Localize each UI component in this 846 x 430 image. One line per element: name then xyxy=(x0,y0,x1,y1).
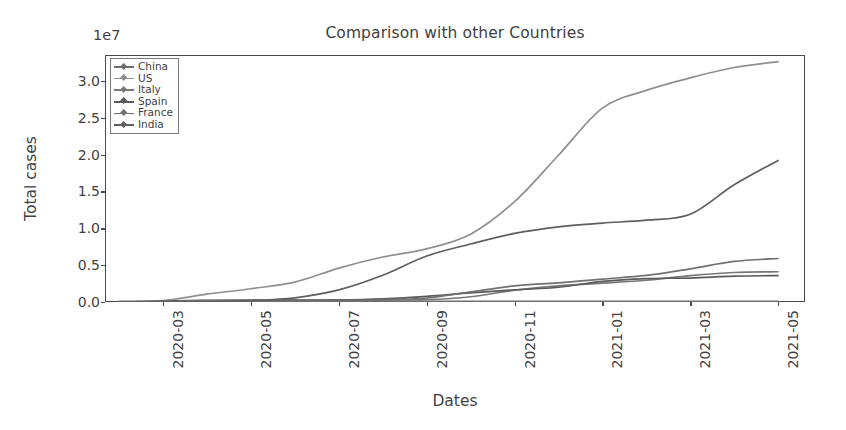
x-tick-mark xyxy=(339,302,340,306)
y-tick-1.0: 1.0 xyxy=(56,220,100,236)
y-tick-2.5: 2.5 xyxy=(56,110,100,126)
legend-item-india[interactable]: India xyxy=(114,119,173,131)
x-tick-2021-03: 2021-03 xyxy=(697,310,713,369)
x-tick-2020-09: 2020-09 xyxy=(434,310,450,369)
plot-lines xyxy=(105,55,805,302)
legend-label: India xyxy=(138,119,164,131)
legend-label: China xyxy=(138,61,168,73)
figure-canvas: 1e7 Comparison with other Countries 0.00… xyxy=(0,0,846,430)
y-tick-0.0: 0.0 xyxy=(56,294,100,310)
x-tick-mark xyxy=(602,302,603,306)
legend-swatch-icon xyxy=(114,96,134,107)
legend-swatch-icon xyxy=(114,84,134,95)
x-tick-mark xyxy=(778,302,779,306)
legend-swatch-icon xyxy=(114,108,134,119)
y-tick-1.5: 1.5 xyxy=(56,183,100,199)
y-tick-3.0: 3.0 xyxy=(56,73,100,89)
y-tick-mark xyxy=(101,302,105,303)
chart-title: Comparison with other Countries xyxy=(105,24,805,42)
x-tick-2020-03: 2020-03 xyxy=(170,310,186,369)
x-tick-mark xyxy=(251,302,252,306)
y-tick-mark xyxy=(101,265,105,266)
y-tick-0.5: 0.5 xyxy=(56,257,100,273)
x-tick-mark xyxy=(163,302,164,306)
y-tick-mark xyxy=(101,81,105,82)
x-tick-2021-05: 2021-05 xyxy=(785,310,801,369)
x-tick-2020-11: 2020-11 xyxy=(522,310,538,369)
x-tick-2021-01: 2021-01 xyxy=(609,310,625,369)
line-france xyxy=(119,259,778,302)
x-axis-label: Dates xyxy=(105,392,805,410)
x-tick-mark xyxy=(427,302,428,306)
line-us xyxy=(119,62,778,302)
y-tick-mark xyxy=(101,155,105,156)
legend-swatch-icon xyxy=(114,119,134,130)
x-tick-mark xyxy=(515,302,516,306)
x-tick-mark xyxy=(690,302,691,306)
line-italy xyxy=(119,272,778,302)
y-axis-tick-labels: 0.00.51.01.52.02.53.0 xyxy=(52,55,100,302)
y-tick-mark xyxy=(101,228,105,229)
line-india xyxy=(119,160,778,302)
legend-item-china[interactable]: China xyxy=(114,61,173,73)
y-tick-mark xyxy=(101,191,105,192)
y-tick-2.0: 2.0 xyxy=(56,147,100,163)
x-tick-2020-05: 2020-05 xyxy=(258,310,274,369)
x-tick-2020-07: 2020-07 xyxy=(346,310,362,369)
legend-swatch-icon xyxy=(114,73,134,84)
legend-swatch-icon xyxy=(114,61,134,72)
y-tick-mark xyxy=(101,118,105,119)
y-axis-label: Total cases xyxy=(22,55,44,302)
chart-legend: ChinaUSItalySpainFranceIndia xyxy=(110,58,179,134)
